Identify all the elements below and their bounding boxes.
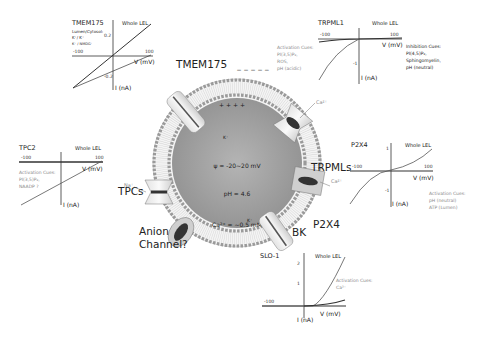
anion-channel-label-1: Anion	[139, 225, 169, 237]
y-axis-label: I (nA)	[297, 316, 313, 323]
tick-label: -100	[73, 49, 83, 54]
tpc2-iv-plot: TPC2 Whole LEL -100 100 V (mV) I (nA) Ac…	[18, 144, 104, 208]
activation-cues: Activation Cues:	[429, 191, 466, 196]
tick-label: -0.2	[104, 74, 113, 79]
slo1-iv-plot: SLO-1 Whole LEL -100 2 1 V (mV) I (nA) A…	[260, 252, 373, 323]
activation-cues: ATP (Lumen)	[429, 205, 458, 210]
plot-title: P2X4	[351, 141, 368, 149]
trpml1-iv-plot: TRPML1 Whole LEL -100 100 -1 V (mV) I (n…	[277, 19, 441, 84]
tick-label: -1	[385, 188, 390, 193]
activation-cues: Ca²⁺	[336, 285, 347, 290]
y-axis-label: I (nA)	[115, 84, 131, 91]
lysosome-channel-diagram: ψ = -20~20 mV pH = 4.6 Ca²⁺ = ~0.5 mM + …	[0, 0, 480, 341]
tick-label: 0.2	[104, 33, 111, 38]
calcium-label: Ca²⁺ = ~0.5 mM	[212, 221, 262, 228]
activation-cues: NAADP ?	[19, 184, 39, 189]
tick-label: -100	[352, 164, 362, 169]
y-axis-label: I (nA)	[392, 200, 408, 207]
activation-cues: Activation Cues:	[277, 45, 314, 50]
plot-title: TPC2	[18, 144, 36, 152]
tick-label: 2	[297, 261, 300, 266]
trpmls-label: TRPMLs	[310, 161, 351, 173]
x-axis-label: V (mV)	[134, 58, 155, 65]
tpcs-label: TPCs	[117, 185, 144, 197]
tick-label: -100	[320, 32, 330, 37]
plot-title: TMEM175	[71, 19, 104, 27]
plot-legend: Whole LEL	[315, 253, 341, 259]
membrane-potential-label: ψ = -20~20 mV	[213, 162, 261, 170]
inhibition-cues: PI(4,5)P₂,	[406, 51, 427, 56]
ca-ion-trpml: Ca²⁺	[316, 99, 328, 105]
inhibition-cues: Sphingomyelin,	[406, 58, 441, 63]
plot-legend: Whole LEL	[122, 20, 148, 26]
plot-legend: Whole LEL	[372, 20, 398, 26]
plot-title: TRPML1	[317, 19, 344, 27]
plot-legend: Whole LEL	[75, 145, 101, 151]
x-axis-label: V (mV)	[413, 174, 434, 181]
activation-cues: Activation Cues:	[336, 278, 373, 283]
inhibition-cues: Inhibition Cues:	[406, 44, 441, 49]
outer-charge-label: − − − − −	[237, 66, 270, 73]
tick-label: 100	[424, 164, 433, 169]
p2x4-iv-plot: P2X4 Whole LEL -100 100 1 -1 V (mV) I (n…	[350, 141, 466, 210]
plot-note: Lumen/Cytosol:	[72, 29, 103, 34]
y-axis-label: I (nA)	[361, 74, 377, 81]
surface-charge-label: + + + +	[219, 101, 245, 108]
k-ion-tmem175: K⁺	[223, 135, 229, 140]
activation-cues: ROS,	[277, 59, 288, 64]
activation-cues: PI(3,5)P₂,	[277, 52, 298, 57]
x-axis-label: V (mV)	[82, 165, 103, 172]
y-axis-label: I (nA)	[63, 201, 79, 208]
activation-cues: pH (neutral)	[429, 198, 457, 203]
tick-label: -100	[21, 155, 31, 160]
tick-label: 100	[145, 49, 154, 54]
plot-legend: Whole LEL	[405, 142, 431, 148]
plot-note: K⁺ / NMDG⁺	[72, 42, 93, 46]
tick-label: 100	[95, 155, 104, 160]
tick-label: -100	[264, 299, 274, 304]
activation-cues: PI(3,5)P₂,	[19, 177, 40, 182]
tick-label: 1	[297, 281, 300, 286]
bk-label: BK	[292, 226, 307, 238]
ph-label: pH = 4.6	[224, 190, 251, 198]
x-axis-label: V (mV)	[320, 310, 341, 317]
tick-label: 1	[386, 146, 389, 151]
anion-channel-label-2: Channel?	[139, 238, 188, 250]
k-ion-bk: K⁺	[247, 218, 253, 223]
p2x4-label: P2X4	[313, 218, 340, 230]
plot-title: SLO-1	[260, 252, 279, 260]
activation-cues: Activation Cues:	[19, 170, 56, 175]
tick-label: -1	[353, 61, 358, 66]
ca-ion-p2x4: Ca²⁺	[331, 178, 343, 184]
tmem175-iv-plot: TMEM175 Whole LEL Lumen/Cytosol: K⁺/ K⁺ …	[71, 19, 155, 91]
activation-cues: pH (acidic)	[277, 66, 301, 71]
tick-label: 100	[390, 32, 399, 37]
plot-note: K⁺/ K⁺	[72, 35, 84, 40]
tmem175-label: TMEM175	[175, 58, 227, 70]
x-axis-label: V (mV)	[382, 41, 403, 48]
inhibition-cues: pH (neutral)	[406, 65, 434, 70]
